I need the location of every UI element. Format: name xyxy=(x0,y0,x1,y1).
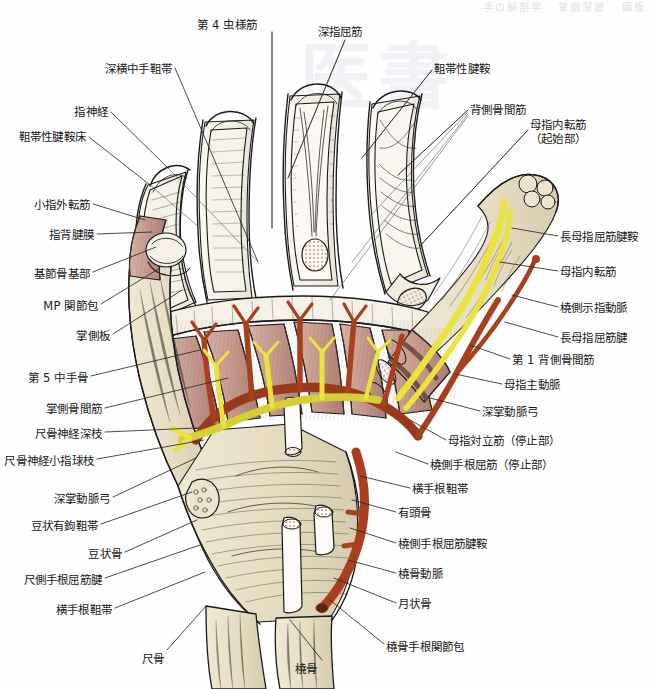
label-capitate: 有頭骨 xyxy=(398,506,432,520)
label-flexor-carpi-ulnaris-tendon: 尺側手根屈筋腱 xyxy=(24,573,102,587)
label-dorsal-digital-expansion: 指背腱膜 xyxy=(49,228,94,242)
label-ligamentous-tendon-sheath: 靻帯性腱鞍 xyxy=(434,62,490,76)
label-palmar-interossei: 掌側骨間筋 xyxy=(46,402,102,416)
label-first-dorsal-interosseous: 第 1 背側骨間筋 xyxy=(512,353,594,367)
label-fifth-metacarpal: 第 5 中手骨 xyxy=(28,371,88,385)
label-flexor-carpi-radialis-sheath: 橈側手根屈筋腱鞍 xyxy=(398,537,488,551)
middle-finger xyxy=(283,84,343,290)
label-opponens-pollicis-insertion: 母指対立筋（停止部） xyxy=(448,434,560,448)
label-flexor-pollicis-longus-sheath: 長母指屈筋腱鞍 xyxy=(560,230,638,244)
index-finger xyxy=(367,91,440,316)
label-radial-artery: 橈骨動脈 xyxy=(398,567,443,581)
label-transverse-carpal-ligament-left: 横手根靻帯 xyxy=(56,603,112,617)
label-pisohamate-ligament: 豆状有鉤靻帯 xyxy=(31,519,98,533)
label-princeps-pollicis-artery: 母指主動脈 xyxy=(504,378,560,392)
label-deep-transverse-metacarpal-ligament: 深横中手靻帯 xyxy=(105,62,172,76)
label-fourth-lumbrical: 第 4 虫様筋 xyxy=(197,18,257,32)
label-base-of-proximal-phalanx: 基節骨基部 xyxy=(34,267,90,281)
label-pisiform: 豆状骨 xyxy=(88,547,122,561)
label-ulnar-nerve-deep-branch: 尺骨神経深枝 xyxy=(35,427,102,441)
label-radius: 橈骨 xyxy=(295,662,317,676)
label-lunate: 月状骨 xyxy=(398,597,432,611)
label-transverse-carpal-ligament-right: 横手根靻帯 xyxy=(412,482,468,496)
label-ulnar-nerve-hypothenar-branch: 尺骨神経小指球枝 xyxy=(4,454,94,468)
label-volar-plate: 掌側板 xyxy=(76,329,110,343)
label-dorsal-interossei: 背側骨間筋 xyxy=(470,103,526,117)
label-deep-palmar-arch-right: 深掌動脈弓 xyxy=(482,405,538,419)
label-radialis-indicis-artery: 橈側示指動脈 xyxy=(560,301,627,315)
label-radiocarpal-joint-capsule: 橈骨手根関節包 xyxy=(386,640,464,654)
label-digital-nerve: 指神経 xyxy=(74,105,108,119)
label-flexor-carpi-radialis-insertion: 橈側手根屈筋（停止部） xyxy=(430,458,553,472)
label-flexor-pollicis-longus-tendon: 長母指屈筋腱 xyxy=(560,331,627,345)
label-ligamentous-tendon-sheath-bed: 靻帯性腱鞍床 xyxy=(19,130,86,144)
label-abductor-digiti-minimi: 小指外転筋 xyxy=(34,198,90,212)
label-flexor-digitorum-profundus: 深指屈筋 xyxy=(318,25,363,39)
label-adductor-pollicis: 母指内転筋 xyxy=(560,265,616,279)
label-deep-palmar-arch: 深掌動脈弓 xyxy=(54,492,110,506)
label-adductor-pollicis-origin: 母指内転筋 （起始部） xyxy=(530,118,586,146)
label-mp-joint-capsule: MP 関節包 xyxy=(43,299,98,313)
anatomy-plate: 手の解剖学 · 掌側深層 · 図版 医書 xyxy=(0,0,654,689)
ring-finger xyxy=(197,111,256,302)
label-ulna: 尺骨 xyxy=(142,652,164,666)
